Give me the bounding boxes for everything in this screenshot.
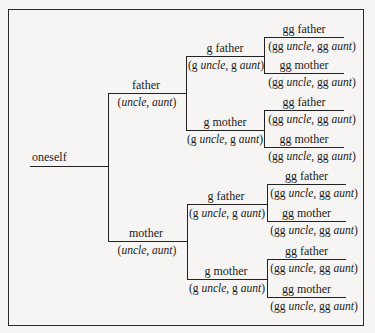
- connector-gg-father-2: [264, 110, 344, 111]
- connector-gg-mother-2: [264, 147, 344, 148]
- node-mother: mother: [108, 227, 184, 240]
- connector-gen1-vertical: [108, 93, 109, 241]
- node-gg-father-1: gg father: [264, 23, 344, 36]
- node-gg-father-4: gg father: [267, 245, 346, 258]
- connector-father: [108, 93, 186, 94]
- node-mother-siblings: (uncle, aunt): [106, 244, 188, 257]
- node-g-father-2-siblings: (g uncle, g aunt): [186, 207, 268, 220]
- node-gg-mother-1: gg mother: [264, 59, 344, 72]
- node-gg-father-2: gg father: [264, 96, 344, 109]
- connector-gg-father-4: [267, 259, 346, 260]
- node-gg-mother-2: gg mother: [264, 133, 344, 146]
- connector-g-father-1: [186, 56, 264, 57]
- connector-oneself: [30, 166, 108, 167]
- connector-g-mother-2: [187, 279, 267, 280]
- connector-gg-father-1: [264, 37, 344, 38]
- node-father: father: [108, 79, 184, 92]
- connector-g-father-2: [187, 204, 267, 205]
- node-gg-mother-2-siblings: (gg uncle, gg aunt): [262, 150, 362, 163]
- node-gg-father-3: gg father: [267, 170, 346, 183]
- connector-gg-mother-1: [264, 73, 344, 74]
- connector-gg-mother-3: [267, 221, 346, 222]
- node-gg-mother-4: gg mother: [267, 283, 346, 296]
- connector-gg-father-3: [267, 184, 346, 185]
- node-g-mother-2-siblings: (g uncle, g aunt): [186, 282, 268, 295]
- node-g-father-1-siblings: (g uncle, g aunt): [186, 59, 266, 72]
- node-g-mother-1: g mother: [186, 116, 264, 129]
- node-gg-mother-4-siblings: (gg uncle, gg aunt): [264, 300, 364, 313]
- node-gg-mother-3-siblings: (gg uncle, gg aunt): [264, 224, 364, 237]
- connector-g-mother-1: [186, 130, 264, 131]
- connector-gg-mother-4: [267, 297, 346, 298]
- node-gg-mother-3: gg mother: [267, 207, 346, 220]
- node-g-father-2: g father: [187, 190, 265, 203]
- node-oneself: oneself: [32, 151, 92, 164]
- node-gg-father-1-siblings: (gg uncle, gg aunt): [262, 40, 362, 53]
- node-gg-mother-1-siblings: (gg uncle, gg aunt): [262, 76, 362, 89]
- node-gg-father-4-siblings: (gg uncle, gg aunt): [264, 262, 364, 275]
- node-father-siblings: (uncle, aunt): [106, 96, 188, 109]
- node-g-mother-2: g mother: [187, 265, 265, 278]
- node-gg-father-2-siblings: (gg uncle, gg aunt): [262, 113, 362, 126]
- node-g-father-1: g father: [186, 42, 264, 55]
- node-gg-father-3-siblings: (gg uncle, gg aunt): [264, 187, 364, 200]
- connector-mother: [108, 241, 187, 242]
- node-g-mother-1-siblings: (g uncle, g aunt): [184, 133, 266, 146]
